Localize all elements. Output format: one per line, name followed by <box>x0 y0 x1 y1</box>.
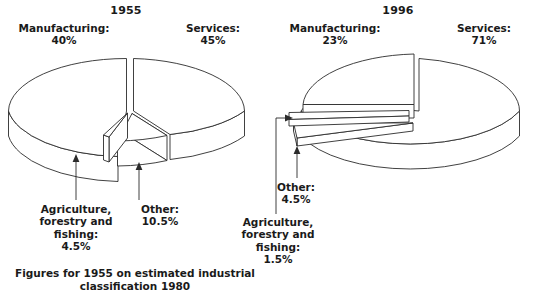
figure-caption: Figures for 1955 on estimated industrial… <box>8 267 262 293</box>
pie-chart-1996 <box>0 0 539 301</box>
figure-root: 1955 Manufacturing: 40% Services: 45% Ag… <box>0 0 539 301</box>
arrowhead-other-1996 <box>294 146 301 154</box>
slice-top-manufacturing-1996 <box>303 54 414 105</box>
leader-agriculture-1996 <box>276 118 287 214</box>
